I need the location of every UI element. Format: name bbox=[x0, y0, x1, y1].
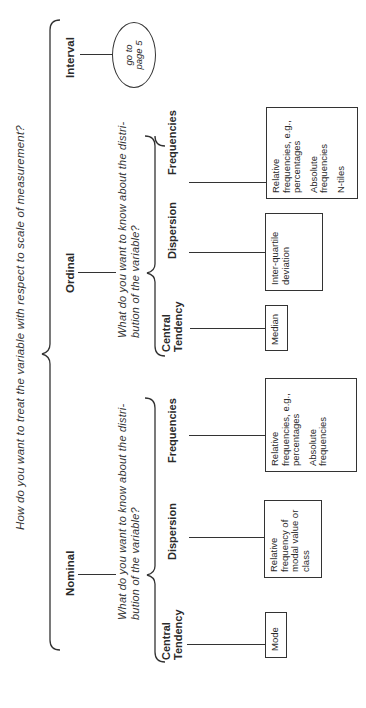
ordinal-cat-central-tendency: Central Tendency bbox=[160, 301, 184, 352]
goto-line2: page 5 bbox=[134, 40, 144, 69]
cat-label-line1: Central bbox=[160, 301, 172, 352]
ordinal-box-dispersion: Inter-quartile deviation bbox=[265, 213, 323, 291]
cat-label-line2: Tendency bbox=[172, 301, 184, 352]
interval-connector bbox=[80, 54, 113, 55]
ordinal-cat-dispersion: Dispersion bbox=[166, 202, 178, 259]
decision-tree-diagram: How do you want to treat the variable wi… bbox=[0, 0, 366, 708]
goto-page-5-oval[interactable]: go to page 5 bbox=[112, 22, 156, 88]
ordinal-box-median: Median bbox=[265, 305, 288, 351]
box-text: Absolute frequencies bbox=[309, 113, 330, 193]
cat-label-line1: Frequencies bbox=[166, 110, 178, 175]
box-text: Inter-quartile deviation bbox=[270, 219, 291, 285]
level-interval-label: Interval bbox=[64, 37, 76, 78]
ordinal-cat-frequencies: Frequencies bbox=[166, 110, 178, 175]
box-text: Median bbox=[270, 311, 281, 345]
ordinal-box-frequencies: Relative frequencies, e.g., percentages … bbox=[266, 107, 358, 199]
ordinal-central-line bbox=[190, 328, 265, 329]
box-text: Relative frequencies, e.g., percentages bbox=[271, 113, 303, 193]
box-text: N-tiles bbox=[336, 113, 347, 193]
ordinal-frequencies-line bbox=[189, 182, 266, 183]
ordinal-dispersion-line bbox=[189, 252, 265, 253]
cat-label-line1: Dispersion bbox=[166, 202, 178, 259]
